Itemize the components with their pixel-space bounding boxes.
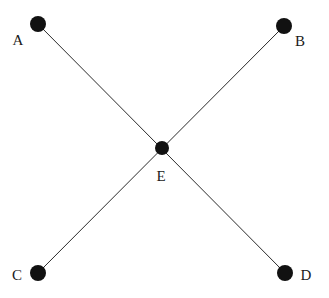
diagram-canvas: A B E C D (0, 0, 329, 298)
node-label-c: C (12, 268, 22, 283)
node-c[interactable] (30, 265, 46, 281)
node-b[interactable] (276, 18, 292, 34)
node-label-e: E (156, 169, 165, 184)
node-label-b: B (295, 34, 305, 49)
node-a[interactable] (30, 16, 46, 32)
node-d[interactable] (277, 265, 293, 281)
node-label-d: D (301, 268, 312, 283)
node-e[interactable] (155, 141, 169, 155)
node-label-a: A (13, 33, 24, 48)
